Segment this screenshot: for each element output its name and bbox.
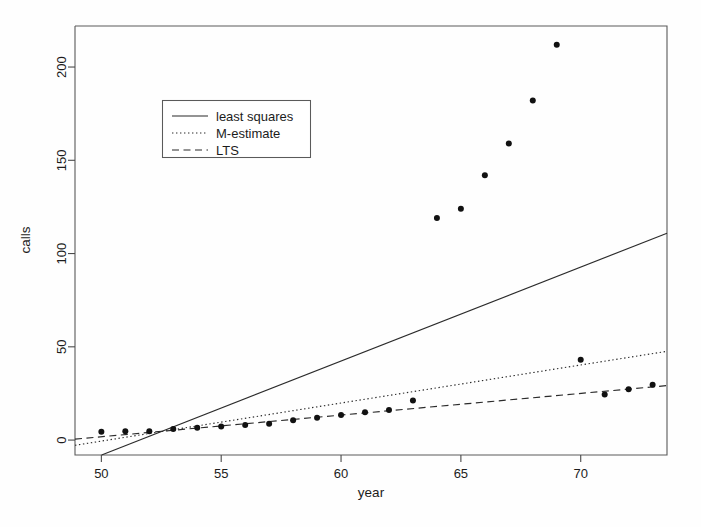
- data-point: [530, 98, 536, 104]
- data-point: [386, 407, 392, 413]
- y-tick-label: 50: [55, 340, 70, 354]
- legend-label: least squares: [216, 109, 294, 124]
- scatter-plot-canvas: 050100150200 5055606570 year calls least…: [0, 0, 701, 527]
- data-point: [146, 428, 152, 434]
- data-point: [554, 42, 560, 48]
- legend-label: LTS: [216, 143, 239, 158]
- data-point: [482, 172, 488, 178]
- x-axis-ticks: 5055606570: [94, 455, 588, 481]
- legend-label: M-estimate: [216, 126, 280, 141]
- data-point: [650, 382, 656, 388]
- data-point: [338, 412, 344, 418]
- x-tick-label: 65: [454, 466, 468, 481]
- data-point: [122, 428, 128, 434]
- x-tick-label: 55: [214, 466, 228, 481]
- y-tick-label: 100: [55, 243, 70, 265]
- y-tick-label: 200: [55, 56, 70, 78]
- y-axis-title: calls: [18, 226, 33, 253]
- legend: least squaresM-estimateLTS: [163, 101, 311, 158]
- data-point: [194, 425, 200, 431]
- data-point: [626, 386, 632, 392]
- data-point: [314, 415, 320, 421]
- y-tick-label: 150: [55, 149, 70, 171]
- data-point: [578, 357, 584, 363]
- regression-lines: [75, 233, 667, 455]
- data-point: [410, 398, 416, 404]
- regression-line-least-squares: [102, 233, 667, 455]
- data-point: [362, 409, 368, 415]
- y-axis-ticks: 050100150200: [55, 56, 76, 444]
- data-point: [290, 417, 296, 423]
- x-tick-label: 60: [334, 466, 348, 481]
- data-point: [170, 426, 176, 432]
- data-point: [242, 422, 248, 428]
- y-tick-label: 0: [55, 436, 70, 443]
- data-point: [602, 392, 608, 398]
- x-tick-label: 50: [94, 466, 108, 481]
- plot-frame: [75, 26, 667, 455]
- data-point: [506, 141, 512, 147]
- data-point: [434, 215, 440, 221]
- data-point: [218, 423, 224, 429]
- x-axis-title: year: [358, 485, 385, 500]
- data-point: [98, 429, 104, 435]
- chart-figure: 050100150200 5055606570 year calls least…: [0, 0, 701, 527]
- data-point: [266, 421, 272, 427]
- data-point: [458, 206, 464, 212]
- x-tick-label: 70: [573, 466, 587, 481]
